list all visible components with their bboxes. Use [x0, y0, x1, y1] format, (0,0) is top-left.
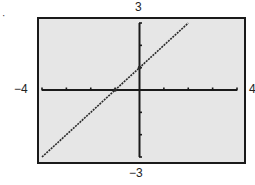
intercept-point	[113, 88, 117, 92]
graph-window	[0, 0, 255, 185]
intercept-point	[138, 66, 142, 70]
